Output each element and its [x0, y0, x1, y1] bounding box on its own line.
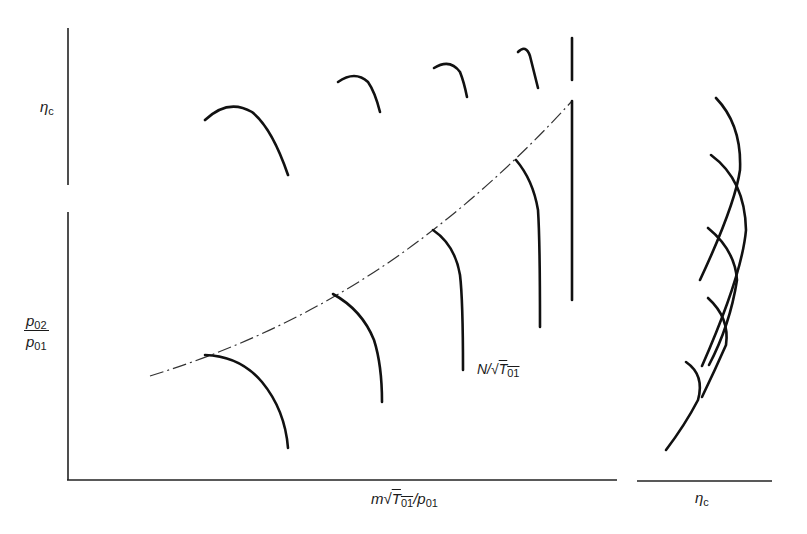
mass-flow-sqrt-term: T01	[392, 490, 413, 507]
top-y-axis-label: ηc	[40, 98, 54, 115]
pressure-ratio-denominator: p01	[24, 331, 49, 350]
pressure-ratio-label: p02 p01	[24, 312, 49, 350]
efficiency-curve-2	[338, 76, 380, 112]
speed-label-sqrt-term: T01	[499, 361, 520, 377]
compressor-characteristic-diagram	[0, 0, 807, 534]
right-x-axis-label: ηc	[695, 489, 709, 506]
speed-parameter-label: N/√T01	[477, 361, 520, 377]
speed-line-4	[516, 160, 540, 327]
speed-line-2	[333, 294, 382, 402]
mass-flow-p-subscript: 01	[426, 497, 438, 509]
speed-line-1	[205, 355, 288, 448]
mass-flow-slash: /p	[413, 490, 426, 507]
right-curve-1	[700, 98, 740, 280]
efficiency-curve-4	[518, 49, 538, 88]
speed-line-3	[433, 230, 463, 370]
mass-flow-prefix: m√	[371, 490, 392, 507]
right-curve-5	[666, 362, 700, 450]
eta-subscript: c	[48, 105, 54, 117]
pressure-ratio-numerator: p02	[24, 312, 49, 331]
eta-subscript-right: c	[703, 496, 709, 508]
mass-flow-axis-label: m√T01/p01	[371, 490, 438, 507]
speed-label-prefix: N/√	[477, 361, 499, 377]
efficiency-curve-1	[205, 107, 288, 175]
surge-line	[150, 101, 572, 376]
efficiency-curve-3	[434, 64, 467, 97]
